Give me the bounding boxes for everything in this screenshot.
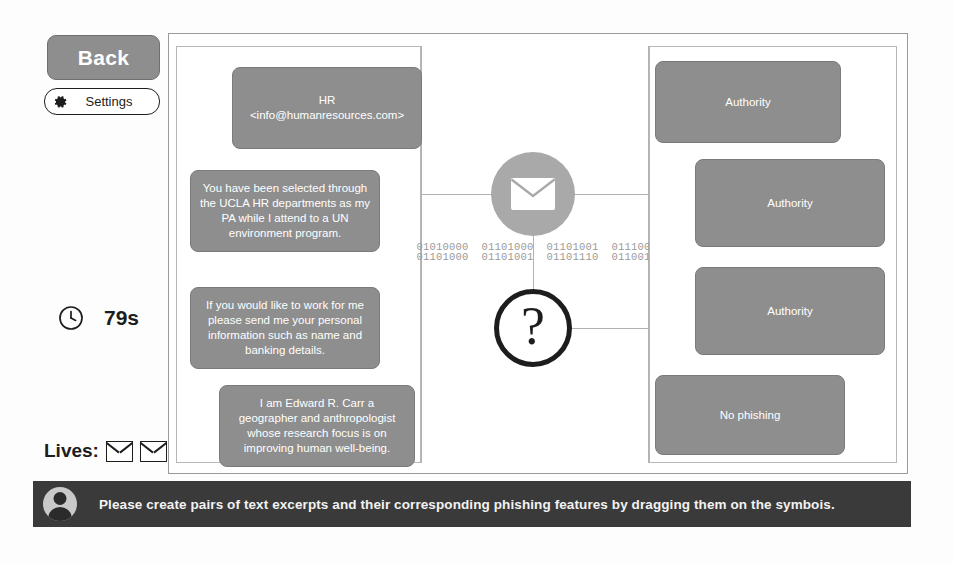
connector-line-mail-left bbox=[421, 194, 493, 195]
mail-drop-target[interactable] bbox=[491, 152, 575, 236]
envelope-icon bbox=[510, 177, 556, 211]
avatar-icon bbox=[43, 487, 77, 521]
phishing-feature-card[interactable]: Authority bbox=[695, 267, 885, 355]
instruction-bar: Please create pairs of text excerpts and… bbox=[33, 481, 911, 527]
envelope-icon bbox=[106, 441, 133, 462]
game-board: HR <info@humanresources.com> You have be… bbox=[168, 33, 908, 474]
phishing-feature-panel: Authority Authority Authority No phishin… bbox=[649, 46, 897, 463]
settings-button[interactable]: Settings bbox=[44, 88, 160, 115]
lives-indicator: Lives: bbox=[44, 440, 167, 462]
timer-value: 79s bbox=[104, 306, 139, 330]
text-excerpt-card[interactable]: HR <info@humanresources.com> bbox=[232, 67, 422, 149]
timer: 79s bbox=[58, 305, 139, 331]
text-excerpt-card[interactable]: You have been selected through the UCLA … bbox=[190, 170, 380, 252]
connector-line-question-right bbox=[572, 328, 648, 329]
phishing-feature-card[interactable]: Authority bbox=[655, 61, 841, 143]
phishing-feature-card[interactable]: Authority bbox=[695, 159, 885, 247]
gear-icon bbox=[51, 93, 69, 111]
instruction-text: Please create pairs of text excerpts and… bbox=[99, 497, 835, 512]
back-button-label: Back bbox=[78, 46, 129, 70]
settings-button-label: Settings bbox=[69, 94, 159, 109]
connector-line-mail-right bbox=[573, 194, 648, 195]
envelope-icon bbox=[140, 441, 167, 462]
avatar-body bbox=[48, 507, 72, 521]
question-mark-icon: ? bbox=[521, 299, 545, 353]
text-excerpt-card[interactable]: If you would like to work for me please … bbox=[190, 287, 380, 369]
text-excerpt-panel: HR <info@humanresources.com> You have be… bbox=[176, 46, 421, 463]
clock-icon bbox=[58, 305, 84, 331]
question-drop-target[interactable]: ? bbox=[494, 289, 572, 367]
back-button[interactable]: Back bbox=[47, 35, 160, 80]
avatar-head bbox=[54, 492, 67, 505]
text-excerpt-card[interactable]: I am Edward R. Carr a geographer and ant… bbox=[219, 385, 415, 467]
phishing-feature-card[interactable]: No phishing bbox=[655, 375, 845, 455]
binary-line-2: 01101000 01101001 01101110 01100111 bbox=[416, 251, 663, 263]
lives-label: Lives: bbox=[44, 440, 99, 462]
binary-decoration: 01010000 01101000 01101001 01110011 0110… bbox=[415, 242, 665, 262]
game-screen: Back Settings 79s Lives: bbox=[0, 0, 953, 563]
sidebar: Back Settings 79s Lives: bbox=[0, 0, 168, 563]
